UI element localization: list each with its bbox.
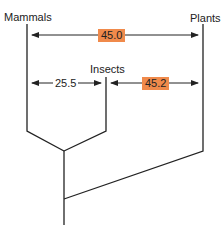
taxon-label-insects: Insects bbox=[90, 63, 125, 76]
plants-branch bbox=[64, 24, 203, 199]
taxon-label-mammals: Mammals bbox=[4, 11, 52, 24]
distance-badge-mammals-plants: 45.0 bbox=[98, 29, 125, 42]
distance-badge-insects-plants: 45.2 bbox=[142, 77, 169, 90]
taxon-label-plants: Plants bbox=[190, 12, 221, 25]
distance-label-mammals-insects: 25.5 bbox=[53, 77, 78, 90]
